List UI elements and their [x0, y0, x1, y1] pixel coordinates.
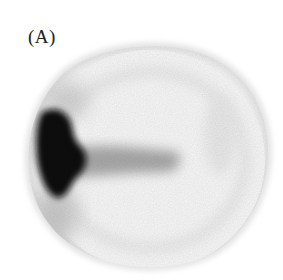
scan-image: [0, 0, 283, 280]
